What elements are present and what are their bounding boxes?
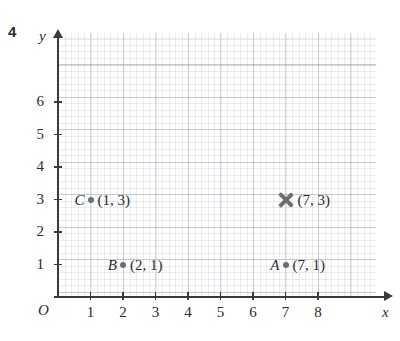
- origin-label: O: [38, 303, 49, 318]
- y-tick-5: [54, 134, 62, 136]
- x-tick-5: [220, 292, 222, 300]
- y-tick-label-6: 6: [24, 94, 44, 109]
- x-axis-label: x: [382, 305, 389, 320]
- y-axis-label: y: [39, 29, 46, 44]
- x-tick-label-5: 5: [211, 305, 231, 320]
- x-tick-7: [285, 292, 287, 300]
- point-marker-dot-C: [88, 197, 94, 203]
- y-tick-1: [54, 264, 62, 266]
- plot-grid: [58, 33, 376, 297]
- point-coords-7-1: (7, 1): [293, 257, 326, 272]
- x-tick-label-3: 3: [146, 305, 166, 320]
- y-tick-3: [54, 199, 62, 201]
- x-tick-label-2: 2: [113, 305, 133, 320]
- y-axis-arrowhead: [53, 29, 63, 38]
- point-coords-1-3: (1, 3): [98, 192, 131, 207]
- y-tick-6: [54, 101, 62, 103]
- point-marker-dot-B: [120, 262, 126, 268]
- x-axis-arrowhead: [384, 291, 393, 301]
- x-tick-label-8: 8: [308, 305, 328, 320]
- y-tick-label-5: 5: [24, 127, 44, 142]
- x-tick-6: [252, 292, 254, 300]
- point-coords-7-3: (7, 3): [298, 192, 331, 207]
- x-tick-1: [90, 292, 92, 300]
- x-tick-label-1: 1: [81, 305, 101, 320]
- y-tick-4: [54, 166, 62, 168]
- y-tick-label-3: 3: [24, 192, 44, 207]
- point-marker-cross-7-3: [277, 191, 295, 209]
- point-name-A: A: [270, 257, 279, 272]
- point-marker-dot-A: [283, 262, 289, 268]
- coordinate-grid-figure: 4 x y O 12345678 123456 C(1, 3)B(2, 1)A(…: [0, 0, 400, 341]
- y-tick-label-4: 4: [24, 159, 44, 174]
- y-tick-label-1: 1: [24, 257, 44, 272]
- point-name-C: C: [74, 192, 84, 207]
- x-tick-label-6: 6: [243, 305, 263, 320]
- point-coords-2-1: (2, 1): [130, 257, 163, 272]
- x-tick-label-7: 7: [276, 305, 296, 320]
- x-tick-4: [187, 292, 189, 300]
- x-tick-label-4: 4: [178, 305, 198, 320]
- x-tick-8: [317, 292, 319, 300]
- question-number: 4: [8, 24, 16, 39]
- y-tick-label-2: 2: [24, 224, 44, 239]
- y-tick-2: [54, 231, 62, 233]
- point-name-B: B: [108, 257, 117, 272]
- x-tick-3: [155, 292, 157, 300]
- x-tick-2: [122, 292, 124, 300]
